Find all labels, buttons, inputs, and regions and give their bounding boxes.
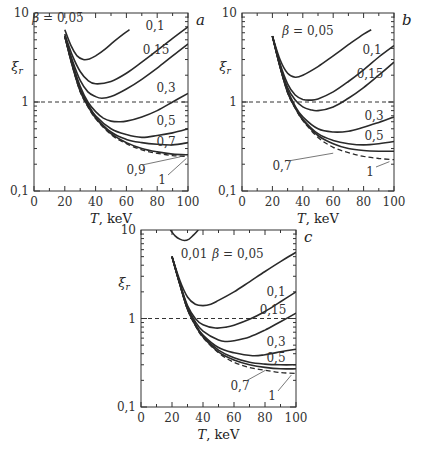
y-tick-label: 0,1 bbox=[218, 184, 237, 198]
series-label: 0,1 bbox=[145, 19, 164, 33]
curve-beta-015 bbox=[172, 257, 296, 342]
series-label: β = 0,05 bbox=[211, 247, 263, 261]
curve-beta-01 bbox=[65, 27, 188, 84]
x-tick-label: 100 bbox=[177, 195, 200, 209]
y-tick-label: 1 bbox=[21, 95, 29, 109]
y-tick-label: 0,1 bbox=[117, 400, 136, 414]
panel-label: c bbox=[304, 228, 313, 246]
x-axis-label: T, keV bbox=[198, 427, 241, 442]
panel-c: 0204060801000,1110ξrT, keVc0,01β = 0,050… bbox=[117, 223, 313, 442]
label-leader-line bbox=[376, 162, 389, 167]
y-tick-label: 0,1 bbox=[10, 184, 29, 198]
x-tick-label: 20 bbox=[265, 195, 280, 209]
y-axis-label: ξr bbox=[118, 275, 130, 292]
series-label: 0,7 bbox=[230, 379, 249, 393]
x-tick-label: 80 bbox=[150, 195, 165, 209]
curve-beta-03 bbox=[65, 36, 188, 122]
panel-label: b bbox=[402, 11, 412, 29]
panel-b: 0204060801000,1110ξrT, keVbβ = 0,050,10,… bbox=[218, 6, 412, 226]
x-tick-label: 80 bbox=[356, 195, 371, 209]
curve-beta-005 bbox=[65, 30, 130, 60]
label-leader-line bbox=[278, 375, 291, 391]
label-leader-line bbox=[246, 371, 265, 381]
y-tick-label: 10 bbox=[14, 6, 29, 20]
series-label: β = 0,05 bbox=[281, 24, 333, 38]
y-tick-label: 1 bbox=[229, 95, 237, 109]
series-label: 0,5 bbox=[266, 351, 285, 365]
series-label: 0,15 bbox=[260, 303, 287, 317]
x-axis-label: T, keV bbox=[297, 211, 340, 226]
series-label: 0,3 bbox=[364, 109, 383, 123]
x-tick-label: 0 bbox=[137, 411, 145, 425]
series-label: 0,01 bbox=[181, 247, 208, 261]
y-tick-label: 10 bbox=[121, 223, 136, 237]
series-label: 1 bbox=[366, 165, 374, 179]
series-label: 0,15 bbox=[143, 43, 170, 57]
series-label: 0,5 bbox=[364, 129, 383, 143]
curve-beta-001 bbox=[170, 230, 198, 241]
panel-label: a bbox=[196, 11, 205, 29]
series-label: β = 0,05 bbox=[31, 11, 83, 25]
x-tick-label: 60 bbox=[119, 195, 134, 209]
x-tick-label: 40 bbox=[195, 411, 210, 425]
x-tick-label: 20 bbox=[164, 411, 179, 425]
x-tick-label: 0 bbox=[238, 195, 246, 209]
x-tick-label: 0 bbox=[30, 195, 38, 209]
x-tick-label: 60 bbox=[226, 411, 241, 425]
y-axis-label: ξr bbox=[11, 59, 23, 76]
x-tick-label: 20 bbox=[57, 195, 72, 209]
series-label: 0,5 bbox=[156, 114, 175, 128]
series-label: 0,3 bbox=[266, 335, 285, 349]
y-axis-label: ξr bbox=[219, 59, 231, 76]
series-label: 0,7 bbox=[156, 135, 175, 149]
label-leader-line bbox=[168, 158, 186, 175]
series-label: 1 bbox=[158, 173, 166, 187]
x-tick-label: 60 bbox=[326, 195, 341, 209]
figure-canvas: 0204060801000,1110ξrT, keVaβ = 0,050,10,… bbox=[0, 0, 427, 450]
label-leader-line bbox=[142, 157, 180, 165]
x-tick-label: 80 bbox=[257, 411, 272, 425]
y-tick-label: 1 bbox=[128, 312, 136, 326]
x-tick-label: 100 bbox=[383, 195, 406, 209]
label-leader-line bbox=[288, 153, 333, 161]
panel-a: 0204060801000,1110ξrT, keVaβ = 0,050,10,… bbox=[10, 6, 205, 226]
series-label: 0,15 bbox=[357, 67, 384, 81]
x-tick-label: 100 bbox=[285, 411, 308, 425]
y-tick-label: 10 bbox=[222, 6, 237, 20]
x-tick-label: 40 bbox=[88, 195, 103, 209]
x-tick-label: 40 bbox=[295, 195, 310, 209]
series-label: 0,1 bbox=[266, 285, 285, 299]
series-label: 0,3 bbox=[156, 81, 175, 95]
series-label: 0,1 bbox=[362, 43, 381, 57]
series-label: 1 bbox=[268, 389, 276, 403]
